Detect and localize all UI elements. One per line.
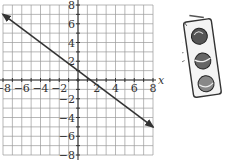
x-tick-label: 4 bbox=[112, 82, 119, 95]
y-tick-label: 6 bbox=[68, 18, 75, 31]
x-tick-label: −4 bbox=[32, 82, 48, 95]
x-tick-label: −6 bbox=[14, 82, 30, 95]
x-tick-label: −8 bbox=[0, 82, 11, 95]
y-tick-label: −4 bbox=[59, 112, 75, 125]
y-tick-label: −8 bbox=[59, 149, 75, 162]
y-tick-label: −2 bbox=[59, 93, 75, 106]
y-tick-label: 4 bbox=[68, 37, 75, 50]
x-tick-label: 6 bbox=[131, 82, 138, 95]
x-tick-label: 8 bbox=[150, 82, 157, 95]
y-tick-label: 8 bbox=[68, 0, 75, 12]
traffic-light-illustration bbox=[182, 12, 224, 112]
traffic-light-icon bbox=[182, 13, 222, 99]
x-axis-label: x bbox=[158, 74, 165, 87]
y-tick-label: −6 bbox=[59, 130, 75, 143]
coordinate-plane-chart: −8−6−4−224688642−2−4−6−8 x bbox=[0, 0, 170, 166]
